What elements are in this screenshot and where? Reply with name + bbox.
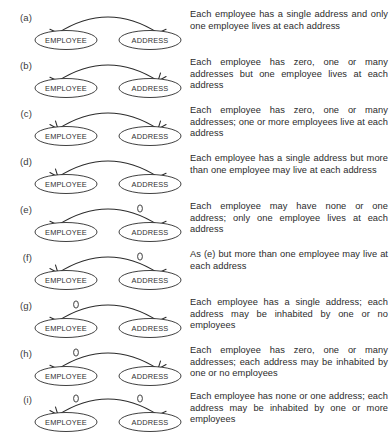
optionality-circle-right (138, 205, 143, 212)
entity-employee-label: EMPLOYEE (45, 324, 87, 333)
row-description: Each employee has a single address and o… (190, 9, 388, 32)
row-description: Each employee has zero, one or many addr… (190, 345, 388, 380)
optionality-circle-right (138, 395, 143, 402)
row-diagram: EMPLOYEEADDRESS (33, 200, 183, 246)
row-label: (f) (4, 252, 32, 263)
row-diagram: EMPLOYEEADDRESS (33, 56, 183, 102)
row-description: Each employee has none or one address; e… (190, 391, 388, 426)
row-label: (c) (4, 108, 32, 119)
entity-employee-label: EMPLOYEE (45, 276, 87, 285)
entity-address-label: ADDRESS (132, 132, 169, 141)
row-description: Each employee has zero, one or many addr… (190, 57, 388, 92)
row-description: Each employee has zero, one or many addr… (190, 105, 388, 140)
optionality-circle-left (74, 395, 79, 402)
entity-address-label: ADDRESS (132, 276, 169, 285)
row-label: (i) (4, 394, 32, 405)
entity-address-label: ADDRESS (132, 418, 169, 427)
row-label: (h) (4, 348, 32, 359)
row-label: (b) (4, 60, 32, 71)
entity-address-label: ADDRESS (132, 180, 169, 189)
row-label: (g) (4, 300, 32, 311)
row-label: (a) (4, 12, 32, 23)
row-description: Each employee may have none or one addre… (190, 201, 388, 236)
notation-row: (b)EMPLOYEEADDRESSEach employee has zero… (0, 56, 392, 104)
row-diagram: EMPLOYEEADDRESS (33, 104, 183, 150)
optionality-circle-right (138, 253, 143, 260)
optionality-circle-left (74, 349, 79, 356)
row-description: As (e) but more than one employee may li… (190, 249, 388, 272)
optionality-circle-left (74, 301, 79, 308)
entity-employee-label: EMPLOYEE (45, 132, 87, 141)
entity-employee-label: EMPLOYEE (45, 418, 87, 427)
notation-row: (c)EMPLOYEEADDRESSEach employee has zero… (0, 104, 392, 152)
entity-address-label: ADDRESS (132, 372, 169, 381)
entity-employee-label: EMPLOYEE (45, 180, 87, 189)
entity-address-label: ADDRESS (132, 84, 169, 93)
entity-address-label: ADDRESS (132, 324, 169, 333)
notation-row: (f)EMPLOYEEADDRESSAs (e) but more than o… (0, 248, 392, 296)
notation-row: (e)EMPLOYEEADDRESSEach employee may have… (0, 200, 392, 248)
entity-address-label: ADDRESS (132, 228, 169, 237)
entity-address-label: ADDRESS (132, 36, 169, 45)
row-diagram: EMPLOYEEADDRESS (33, 390, 183, 432)
notation-row: (h)EMPLOYEEADDRESSEach employee has zero… (0, 344, 392, 390)
row-diagram: EMPLOYEEADDRESS (33, 152, 183, 198)
row-label: (d) (4, 156, 32, 167)
er-cardinality-figure: (a)EMPLOYEEADDRESSEach employee has a si… (0, 0, 392, 432)
notation-row: (g)EMPLOYEEADDRESSEach employee has a si… (0, 296, 392, 344)
notation-row: (d)EMPLOYEEADDRESSEach employee has a si… (0, 152, 392, 200)
entity-employee-label: EMPLOYEE (45, 84, 87, 93)
row-diagram: EMPLOYEEADDRESS (33, 344, 183, 390)
notation-row: (i)EMPLOYEEADDRESSEach employee has none… (0, 390, 392, 432)
row-label: (e) (4, 204, 32, 215)
entity-employee-label: EMPLOYEE (45, 228, 87, 237)
entity-employee-label: EMPLOYEE (45, 36, 87, 45)
row-diagram: EMPLOYEEADDRESS (33, 296, 183, 342)
row-diagram: EMPLOYEEADDRESS (33, 248, 183, 294)
row-diagram: EMPLOYEEADDRESS (33, 8, 183, 54)
entity-employee-label: EMPLOYEE (45, 372, 87, 381)
row-description: Each employee has a single address; each… (190, 297, 388, 332)
row-description: Each employee has a single address but m… (190, 153, 388, 176)
notation-row: (a)EMPLOYEEADDRESSEach employee has a si… (0, 8, 392, 56)
